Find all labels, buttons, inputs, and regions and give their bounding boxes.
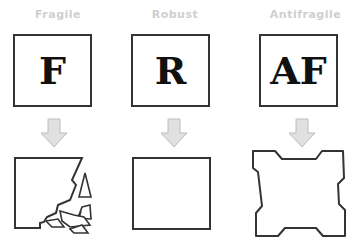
label-robust: Robust [135,8,215,21]
down-arrow-icon [40,118,68,148]
box-antifragile: AF [259,34,338,107]
down-arrow-icon [160,118,188,148]
intact-square-icon [132,157,211,230]
letter-af: AF [270,52,326,90]
letter-r: R [155,52,187,90]
reinforced-square-icon [250,148,350,238]
label-antifragile: Antifragile [258,8,353,21]
box-fragile: F [13,34,92,107]
down-arrow-icon [288,118,316,148]
box-robust: R [131,34,210,107]
label-fragile: Fragile [13,8,103,21]
shattered-square-icon [12,155,97,235]
letter-f: F [39,52,66,90]
